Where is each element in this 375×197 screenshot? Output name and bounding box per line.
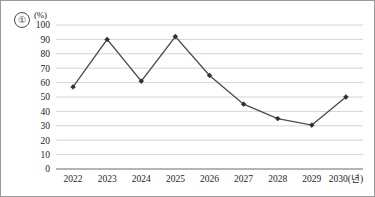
- x-axis-tick-labels: 202220232024202520262027202820292030(년): [64, 174, 364, 185]
- x-axis-tick-label: 2027: [234, 174, 253, 184]
- x-axis-tick-label: 2022: [64, 174, 83, 184]
- x-axis-tick-label: 2030(년): [329, 174, 363, 185]
- y-axis-tick-label: 10: [41, 150, 51, 160]
- y-axis-tick-label: 70: [41, 64, 51, 74]
- x-axis-tick-label: 2028: [268, 174, 287, 184]
- y-axis-tick-label: 0: [45, 164, 50, 174]
- x-axis-tick-label: 2024: [132, 174, 151, 184]
- y-axis-tick-label: 90: [41, 35, 51, 45]
- x-axis-tick-label: 2025: [166, 174, 185, 184]
- y-axis-tick-label: 50: [41, 92, 51, 102]
- y-axis-tick-label: 80: [41, 49, 51, 59]
- y-axis-tick-label: 60: [41, 78, 51, 88]
- data-point-marker: [275, 116, 280, 121]
- y-axis-tick-labels: 0102030405060708090100: [36, 20, 51, 174]
- plot-area: 0102030405060708090100 20222023202420252…: [1, 1, 375, 197]
- chart-figure: ① (%) 0102030405060708090100 20222023202…: [0, 0, 375, 197]
- x-axis-tick-label: 2023: [98, 174, 117, 184]
- y-axis-tick-label: 30: [41, 121, 51, 131]
- y-axis-tick-label: 100: [36, 20, 51, 30]
- x-axis-tick-label: 2029: [302, 174, 321, 184]
- data-point-markers: [71, 34, 349, 127]
- y-axis-tick-label: 40: [41, 107, 51, 117]
- x-axis-tick-label: 2026: [200, 174, 219, 184]
- y-axis-tick-label: 20: [41, 136, 51, 146]
- line-chart-svg: 0102030405060708090100 20222023202420252…: [1, 1, 375, 197]
